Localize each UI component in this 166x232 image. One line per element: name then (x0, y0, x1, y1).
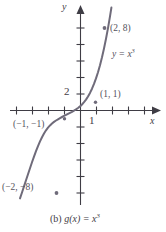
graph-figure: y x 2 1 (2, 8) (1, 1) (−1, −1) (−2, −8) … (0, 0, 166, 232)
y-axis-arrow-icon (77, 5, 85, 14)
point-marker-1-1 (94, 101, 97, 104)
caption-exponent: 3 (96, 212, 99, 219)
cubic-curve (20, 8, 111, 199)
x-axis-tick-label-1: 1 (89, 115, 95, 126)
y-axis-label: y (62, 2, 66, 12)
x-axis-arrow-icon (152, 107, 161, 115)
plot-canvas (0, 0, 166, 232)
point-label-2-8: (2, 8) (110, 24, 131, 34)
curve-equation-base: y = x (112, 49, 132, 59)
figure-caption: (b) g(x) = x3 (50, 214, 100, 224)
curve-equation-label: y = x3 (112, 50, 135, 60)
point-label-neg1-neg1: (−1, −1) (13, 120, 44, 130)
point-marker-n1-n1 (63, 117, 66, 120)
point-label-neg2-neg8: (−2, −8) (2, 183, 33, 193)
caption-prefix: (b) (50, 213, 62, 224)
y-axis-tick-label-2: 2 (64, 86, 70, 97)
caption-function: g(x) = x (64, 213, 96, 224)
x-axis-label: x (150, 116, 154, 126)
point-marker-n2-n8 (55, 191, 59, 195)
curve-equation-exponent: 3 (132, 47, 135, 54)
point-marker-2-8 (103, 26, 107, 30)
point-label-1-1: (1, 1) (100, 90, 121, 100)
